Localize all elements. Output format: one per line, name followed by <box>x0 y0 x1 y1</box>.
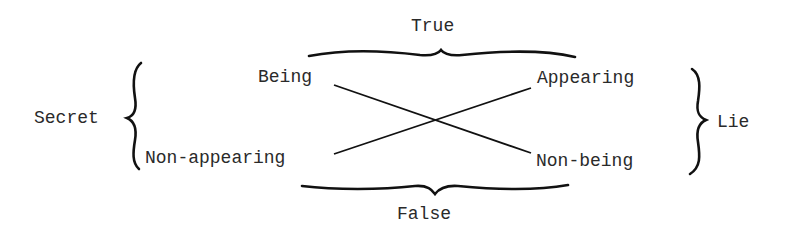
left-brace <box>127 63 141 169</box>
label-false: False <box>397 205 451 223</box>
edge-being-to-non-being <box>334 85 531 153</box>
node-being: Being <box>258 68 312 86</box>
label-lie: Lie <box>717 113 749 131</box>
edge-non-appearing-to-appearing <box>334 88 531 154</box>
node-appearing: Appearing <box>537 69 634 87</box>
top-brace <box>309 50 575 57</box>
label-true: True <box>411 17 454 35</box>
right-brace <box>690 69 706 174</box>
bottom-brace <box>302 185 568 194</box>
node-non-being: Non-being <box>536 152 633 170</box>
label-secret: Secret <box>34 109 99 127</box>
diagram-graphics <box>0 0 788 232</box>
node-non-appearing: Non-appearing <box>145 149 285 167</box>
